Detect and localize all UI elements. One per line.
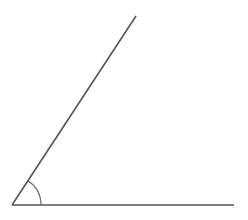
angle-arc — [28, 181, 41, 205]
slanted-ray — [12, 16, 136, 205]
angle-diagram — [0, 0, 248, 220]
